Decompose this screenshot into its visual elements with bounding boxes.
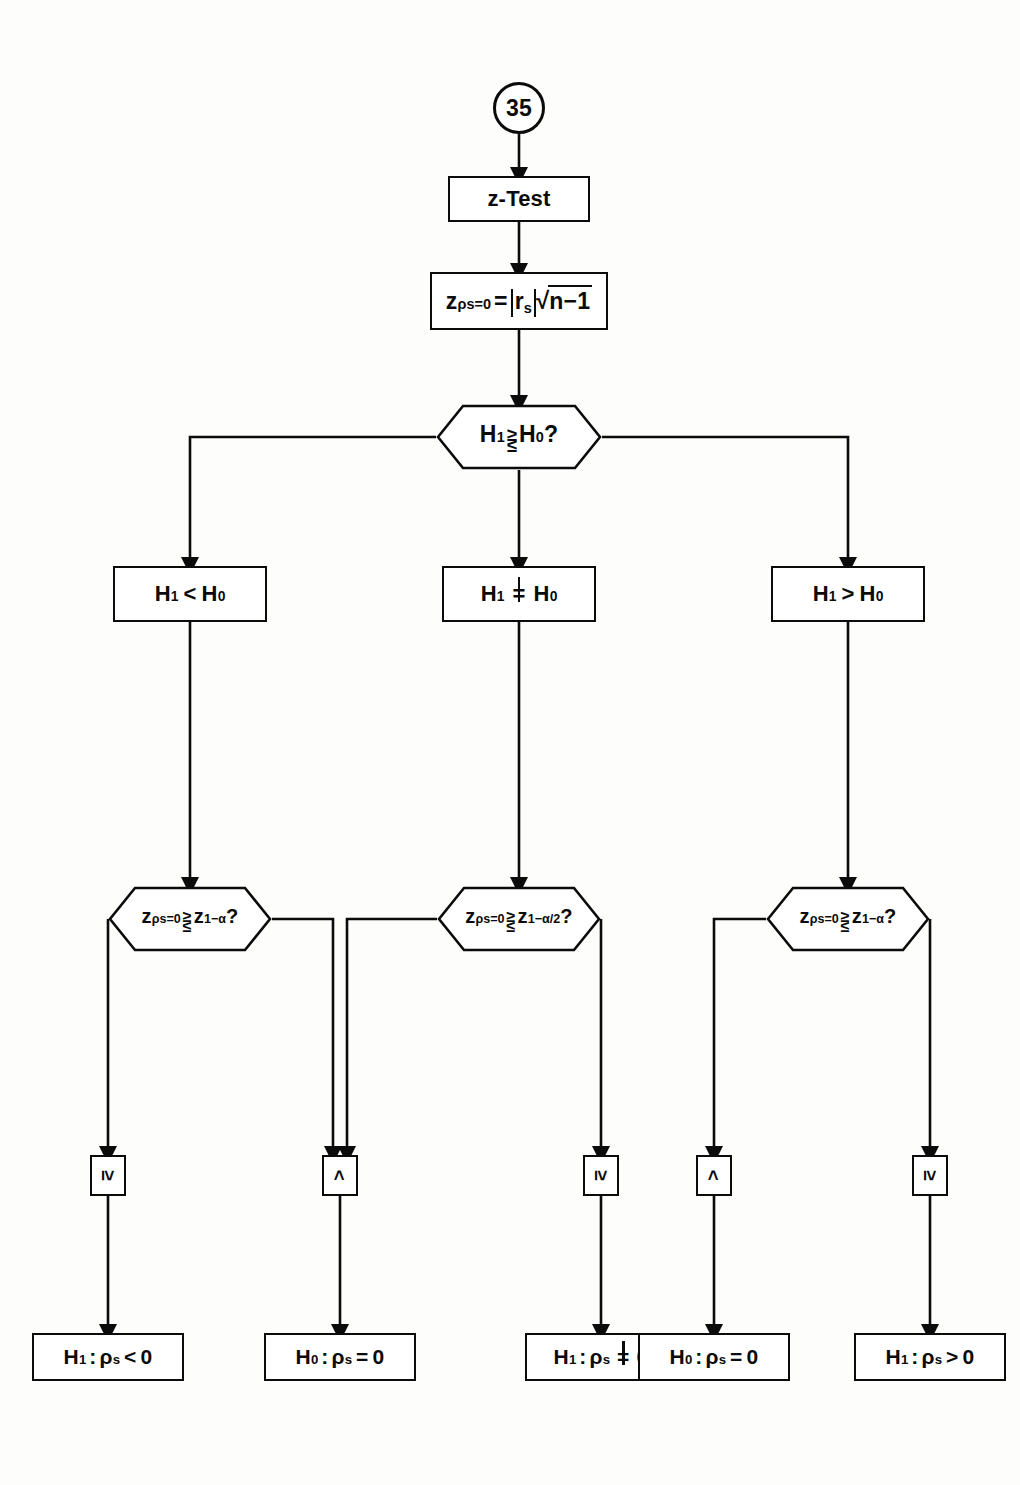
result-1-separator: : bbox=[86, 1345, 99, 1369]
branch-greater-h1-subscript: 1 bbox=[829, 588, 837, 604]
result-5-label: H1 : ρs > 0 bbox=[886, 1345, 975, 1369]
gate-1-label: ≥ bbox=[98, 1170, 117, 1181]
crit-left-var-subscript: ρs=0 bbox=[152, 912, 181, 926]
gtrless-bottom: ≤ bbox=[507, 922, 516, 932]
result-3-rho: ρ bbox=[590, 1345, 603, 1369]
hypothesis-decision-label: H1 ≥ ≤ H0? bbox=[480, 421, 558, 453]
critical-right-label: zρs=0 ≥ ≤ z1−α? bbox=[799, 905, 896, 933]
critical-value-hexagon-middle: zρs=0 ≥ ≤ z1−α/2? bbox=[437, 886, 601, 952]
branch-greater-h0: H bbox=[860, 581, 876, 607]
branch-box-not-equal: H1 = H0 bbox=[442, 566, 596, 622]
result-4-label: H0 : ρs = 0 bbox=[670, 1345, 759, 1369]
page-connector-label: 35 bbox=[506, 95, 532, 122]
result-1-hypothesis: H bbox=[64, 1345, 79, 1369]
result-box-5: H1 : ρs > 0 bbox=[854, 1333, 1006, 1381]
result-2-hypothesis-subscript: 0 bbox=[311, 1352, 318, 1367]
gate-box-5-ge: ≥ bbox=[912, 1155, 948, 1196]
result-1-rho: ρ bbox=[100, 1345, 113, 1369]
statistic-abs-group: rs bbox=[511, 289, 536, 316]
gate-box-1-ge: ≥ bbox=[90, 1155, 126, 1196]
crit-mid-question-mark: ? bbox=[560, 905, 572, 928]
not-equal-icon: = bbox=[615, 1345, 631, 1369]
result-1-operator: < bbox=[120, 1345, 140, 1369]
branch-greater-label: H1 > H0 bbox=[813, 581, 884, 607]
branch-less-h1-subscript: 1 bbox=[171, 588, 179, 604]
critical-value-hexagon-left: zρs=0 ≥ ≤ z1−α? bbox=[108, 886, 272, 952]
page-connector-35: 35 bbox=[493, 82, 545, 134]
gate-4-label: < bbox=[704, 1170, 723, 1181]
gtrless-bottom: ≤ bbox=[841, 922, 850, 932]
crit-left-var: z bbox=[141, 905, 151, 928]
statistic-radicand: n−1 bbox=[548, 285, 592, 315]
branch-greater-operator: > bbox=[836, 581, 859, 607]
gtrless-icon: ≥ ≤ bbox=[507, 429, 517, 452]
result-3-rho-subscript: s bbox=[603, 1352, 610, 1367]
result-box-4: H0 : ρs = 0 bbox=[638, 1333, 790, 1381]
branch-greater-h0-subscript: 0 bbox=[876, 588, 884, 604]
result-5-separator: : bbox=[908, 1345, 921, 1369]
crit-right-crit-subscript: 1−α bbox=[862, 912, 884, 926]
branch-less-operator: < bbox=[178, 581, 201, 607]
branch-less-h0: H bbox=[202, 581, 218, 607]
gtrless-icon: ≥ ≤ bbox=[841, 912, 850, 932]
result-box-1: H1 : ρs < 0 bbox=[32, 1333, 184, 1381]
critical-value-hexagon-right: zρs=0 ≥ ≤ z1−α? bbox=[766, 886, 930, 952]
gtrless-icon: ≥ ≤ bbox=[183, 912, 192, 932]
hypothesis-decision-hexagon: H1 ≥ ≤ H0? bbox=[436, 404, 602, 470]
test-statistic-box: zρs=0 = rs √n−1 bbox=[430, 272, 608, 330]
result-5-hypothesis: H bbox=[886, 1345, 901, 1369]
hyp-right: H bbox=[519, 421, 536, 448]
result-5-value: 0 bbox=[963, 1345, 975, 1369]
result-1-value: 0 bbox=[141, 1345, 153, 1369]
result-1-rho-subscript: s bbox=[113, 1352, 120, 1367]
result-3-hypothesis-subscript: 1 bbox=[569, 1352, 576, 1367]
gate-3-label: ≥ bbox=[591, 1170, 610, 1181]
crit-mid-var: z bbox=[465, 905, 475, 928]
result-2-rho-subscript: s bbox=[345, 1352, 352, 1367]
gtrless-icon: ≥ ≤ bbox=[507, 912, 516, 932]
hyp-left-subscript: 1 bbox=[497, 429, 505, 445]
crit-right-var-subscript: ρs=0 bbox=[810, 912, 839, 926]
result-4-hypothesis: H bbox=[670, 1345, 685, 1369]
result-1-label: H1 : ρs < 0 bbox=[64, 1345, 153, 1369]
branch-neq-h0-subscript: 0 bbox=[550, 588, 558, 604]
result-2-operator: = bbox=[352, 1345, 372, 1369]
gate-2-label: < bbox=[330, 1170, 349, 1181]
crit-left-crit: z bbox=[194, 905, 204, 928]
gate-box-3-ge: ≥ bbox=[583, 1155, 619, 1196]
branch-less-h0-subscript: 0 bbox=[218, 588, 226, 604]
hyp-right-subscript: 0 bbox=[536, 429, 544, 445]
test-name-label: z-Test bbox=[487, 186, 550, 212]
not-equal-icon: = bbox=[510, 581, 527, 607]
crit-left-question-mark: ? bbox=[226, 905, 238, 928]
connector-lines bbox=[0, 0, 1020, 1485]
result-5-rho-subscript: s bbox=[935, 1352, 942, 1367]
result-2-separator: : bbox=[318, 1345, 331, 1369]
test-name-box: z-Test bbox=[448, 176, 590, 222]
statistic-equals: = bbox=[491, 288, 511, 315]
result-4-separator: : bbox=[692, 1345, 705, 1369]
result-2-label: H0 : ρs = 0 bbox=[296, 1345, 385, 1369]
result-1-hypothesis-subscript: 1 bbox=[79, 1352, 86, 1367]
result-box-2: H0 : ρs = 0 bbox=[264, 1333, 416, 1381]
result-4-rho-subscript: s bbox=[719, 1352, 726, 1367]
branch-greater-h1: H bbox=[813, 581, 829, 607]
hyp-question-mark: ? bbox=[544, 421, 558, 448]
gate-box-4-lt: < bbox=[696, 1155, 732, 1196]
result-4-rho: ρ bbox=[706, 1345, 719, 1369]
result-2-rho: ρ bbox=[332, 1345, 345, 1369]
crit-right-question-mark: ? bbox=[884, 905, 896, 928]
result-5-hypothesis-subscript: 1 bbox=[901, 1352, 908, 1367]
crit-right-var: z bbox=[799, 905, 809, 928]
sqrt-icon: √ bbox=[536, 287, 549, 315]
result-5-rho: ρ bbox=[922, 1345, 935, 1369]
crit-mid-crit-subscript: 1−α/2 bbox=[528, 912, 561, 926]
critical-middle-label: zρs=0 ≥ ≤ z1−α/2? bbox=[465, 905, 573, 933]
hyp-left: H bbox=[480, 421, 497, 448]
crit-mid-crit: z bbox=[518, 905, 528, 928]
result-2-value: 0 bbox=[373, 1345, 385, 1369]
statistic-var: z bbox=[446, 288, 458, 315]
result-4-operator: = bbox=[726, 1345, 746, 1369]
statistic-abs-subscript: s bbox=[524, 300, 532, 316]
branch-not-equal-label: H1 = H0 bbox=[481, 581, 558, 607]
